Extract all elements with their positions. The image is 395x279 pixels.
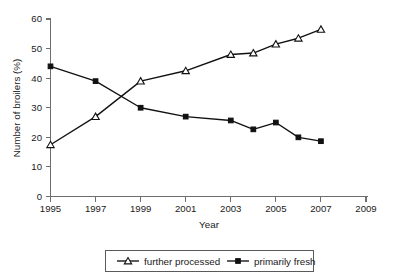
series-line	[51, 66, 321, 141]
chart-figure: 0102030405060 19951997199920012003200520…	[0, 0, 395, 279]
legend-item-label: further processed	[144, 256, 220, 267]
marker-filled-square	[274, 120, 279, 125]
marker-filled-square	[251, 127, 256, 132]
y-axis: 0102030405060	[31, 13, 50, 202]
y-tick-label: 0	[37, 191, 42, 202]
x-tick-label: 2009	[355, 203, 376, 214]
series-further-processed	[47, 26, 325, 148]
y-tick-label: 10	[31, 161, 42, 172]
line-chart-canvas: 0102030405060 19951997199920012003200520…	[0, 0, 395, 279]
x-tick-label: 1995	[40, 203, 61, 214]
x-tick-label: 1997	[85, 203, 106, 214]
x-tick-label: 2005	[265, 203, 286, 214]
data-series-layer	[47, 26, 325, 148]
marker-open-triangle	[47, 141, 54, 147]
chart-legend: further processedprimarily fresh	[106, 251, 316, 272]
series-line	[51, 29, 321, 144]
x-tick-label: 1999	[130, 203, 151, 214]
y-tick-label: 30	[31, 102, 42, 113]
y-axis-title: Number of broilers (%)	[11, 59, 22, 158]
x-tick-label: 2001	[175, 203, 196, 214]
x-axis-title: Year	[199, 219, 220, 230]
marker-filled-square	[296, 135, 301, 140]
marker-filled-square	[319, 139, 324, 144]
marker-filled-square	[183, 114, 188, 119]
marker-filled-square	[138, 105, 143, 110]
marker-filled-square	[48, 64, 53, 69]
marker-open-triangle	[317, 26, 324, 32]
y-axis-ticks: 0102030405060	[31, 13, 50, 202]
x-tick-label: 2007	[310, 203, 331, 214]
marker-filled-square	[236, 259, 241, 264]
y-tick-label: 40	[31, 73, 42, 84]
y-tick-label: 20	[31, 132, 42, 143]
x-axis-ticks: 19951997199920012003200520072009	[40, 197, 377, 215]
marker-filled-square	[228, 118, 233, 123]
y-tick-label: 60	[31, 13, 42, 24]
y-tick-label: 50	[31, 43, 42, 54]
x-tick-label: 2003	[220, 203, 241, 214]
series-primarily-fresh	[48, 64, 323, 143]
legend-items: further processedprimarily fresh	[117, 256, 316, 267]
x-axis: 19951997199920012003200520072009	[40, 197, 377, 215]
marker-filled-square	[93, 79, 98, 84]
legend-item-label: primarily fresh	[254, 256, 316, 267]
